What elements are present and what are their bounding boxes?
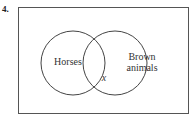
universal-set-rectangle bbox=[19, 8, 189, 114]
horses-label: Horses bbox=[48, 56, 88, 67]
venn-diagram bbox=[0, 0, 193, 114]
brown-animals-label-line2: animals bbox=[122, 62, 162, 73]
brown-animals-label: Brown animals bbox=[122, 51, 162, 73]
intersection-label: x bbox=[99, 72, 109, 83]
brown-animals-label-line1: Brown bbox=[122, 51, 162, 62]
